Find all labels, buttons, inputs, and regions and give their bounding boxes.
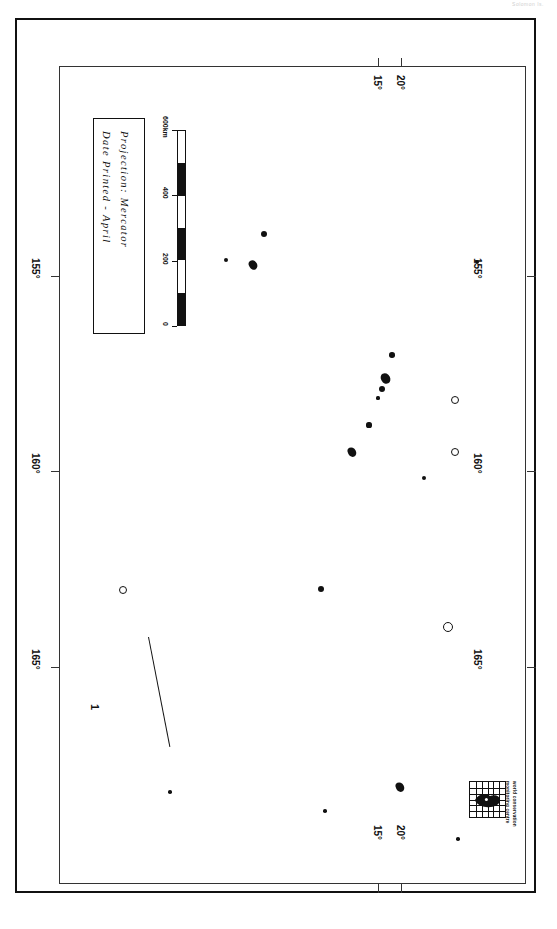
- date-printed-text: Date Printed - April: [101, 131, 112, 244]
- island-marker: [247, 259, 259, 271]
- axis-label-lon-155-left: 155°: [30, 258, 41, 279]
- scale-tick-400: [172, 195, 177, 196]
- island-marker: [456, 837, 460, 841]
- island-marker: [366, 422, 371, 427]
- island-marker: [389, 352, 395, 358]
- scale-tick-0: [172, 326, 177, 327]
- scale-label-200: 200: [162, 253, 169, 265]
- island-marker: [323, 809, 327, 813]
- globe-swirl-icon: [473, 791, 502, 809]
- scale-segment: [178, 163, 185, 195]
- tick-lon-160-left: [51, 471, 60, 472]
- tick-lat-15-top: [378, 58, 379, 67]
- logo-line-1: world conservation: [512, 781, 517, 827]
- scale-tick-600: [172, 130, 177, 131]
- scale-segment: [178, 228, 185, 260]
- island-marker: [379, 371, 392, 384]
- sheet-header-text: Solomon Is.: [512, 1, 544, 7]
- island-marker: [224, 258, 229, 263]
- tick-lat-20-bottom: [401, 884, 402, 893]
- scale-segment: [178, 293, 185, 325]
- island-marker: [119, 586, 127, 594]
- island-marker: [318, 586, 324, 592]
- axis-label-lon-155-right: 155°: [472, 258, 483, 279]
- tick-lon-160-right: [527, 471, 536, 472]
- axis-label-lon-160-right: 160°: [472, 453, 483, 474]
- island-marker: [376, 396, 379, 399]
- island-marker: [346, 445, 358, 458]
- scale-tick-200: [172, 261, 177, 262]
- island-marker: [451, 396, 459, 404]
- island-marker: [451, 448, 460, 457]
- callout-leader-line: [148, 637, 170, 747]
- callout-number-1: 1: [89, 704, 101, 710]
- tick-lon-155-right: [527, 276, 536, 277]
- logo-text-block: world conservation monitoring centre: [510, 779, 554, 819]
- tick-lat-20-top: [401, 58, 402, 67]
- projection-text: Projection: Mercator: [119, 131, 130, 248]
- sheet-border: 15° 20° 15° 20° 155° 160° 165° 155° 160°…: [15, 18, 536, 893]
- logo-line-2: monitoring centre: [505, 781, 510, 823]
- island-marker: [379, 386, 385, 392]
- scale-label-400: 400: [162, 187, 169, 199]
- organisation-logo: world conservation monitoring centre: [469, 781, 506, 818]
- map-title-box: Projection: Mercator Date Printed - Apri…: [93, 118, 145, 334]
- island-marker: [422, 476, 426, 480]
- axis-label-lon-160-left: 160°: [30, 453, 41, 474]
- tick-lon-165-left: [51, 667, 60, 668]
- island-marker: [443, 622, 453, 632]
- scale-label-600km: 600km: [162, 116, 169, 138]
- island-marker: [168, 790, 172, 794]
- scale-label-0: 0: [162, 322, 169, 326]
- axis-label-lon-165-right: 165°: [472, 649, 483, 670]
- island-marker: [394, 780, 406, 793]
- island-marker: [261, 231, 267, 237]
- tick-lat-15-bottom: [378, 884, 379, 893]
- axis-label-lat-15-top: 15°: [372, 75, 383, 90]
- axis-label-lon-165-left: 165°: [30, 649, 41, 670]
- grid-line: [470, 811, 505, 812]
- tick-lon-165-right: [527, 667, 536, 668]
- tick-lon-155-left: [51, 276, 60, 277]
- scale-bar: [177, 130, 186, 326]
- axis-label-lat-20-bottom: 20°: [395, 825, 406, 840]
- axis-label-lat-20-top: 20°: [395, 75, 406, 90]
- axis-label-lat-15-bottom: 15°: [372, 825, 383, 840]
